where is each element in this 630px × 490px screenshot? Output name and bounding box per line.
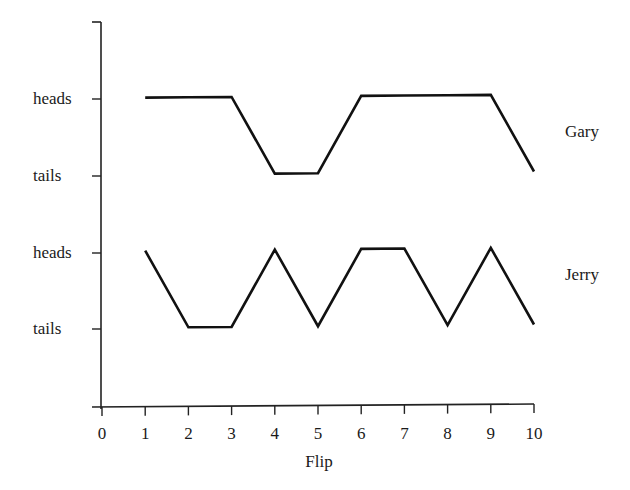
series-label-jerry: Jerry [565,265,599,284]
series-line-gary [145,95,534,174]
x-tick-label: 1 [141,424,150,443]
y-tick-label: heads [33,243,72,262]
y-tick-label: tails [33,319,61,338]
y-tick-label: tails [33,166,61,185]
x-tick-label: 8 [443,424,452,443]
x-axis-title: Flip [305,452,332,471]
y-tick-label: heads [33,89,72,108]
series-line-jerry [145,248,534,327]
x-tick-label: 0 [98,424,107,443]
chart: 012345678910FlipheadstailsheadstailsGary… [0,0,630,490]
x-tick-label: 5 [314,424,323,443]
x-tick-label: 6 [357,424,366,443]
x-tick-label: 10 [526,424,543,443]
series-label-gary: Gary [565,122,599,141]
x-tick-label: 7 [400,424,409,443]
x-axis-line [92,404,534,407]
x-tick-label: 2 [184,424,193,443]
x-tick-label: 3 [227,424,236,443]
x-tick-label: 9 [487,424,496,443]
x-tick-label: 4 [271,424,280,443]
